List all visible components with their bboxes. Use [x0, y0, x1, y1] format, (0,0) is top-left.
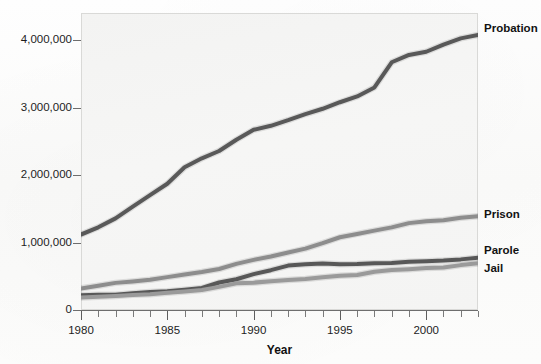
x-tick-label: 1985 — [155, 324, 181, 336]
x-tick-minor — [236, 311, 237, 317]
x-tick-major — [426, 311, 427, 320]
x-tick-minor — [478, 311, 479, 317]
y-tick-mark — [73, 108, 81, 109]
y-tick-label: 3,000,000 — [2, 101, 72, 113]
x-tick-minor — [271, 311, 272, 317]
y-tick-label: 1,000,000 — [2, 236, 72, 248]
x-tick-minor — [409, 311, 410, 317]
series-lines — [81, 13, 478, 310]
y-tick-mark — [73, 175, 81, 176]
x-axis-line — [81, 310, 478, 311]
x-tick-label: 2000 — [413, 324, 439, 336]
series-line-halo — [81, 35, 478, 235]
x-tick-minor — [202, 311, 203, 317]
x-tick-major — [81, 311, 82, 320]
series-label-prison: Prison — [484, 208, 520, 220]
x-tick-minor — [288, 311, 289, 317]
x-tick-minor — [323, 311, 324, 317]
y-tick-mark — [73, 243, 81, 244]
y-tick-mark — [73, 310, 81, 311]
x-tick-label: 1980 — [68, 324, 94, 336]
x-tick-major — [340, 311, 341, 320]
series-label-jail: Jail — [484, 262, 503, 274]
y-tick-mark — [73, 40, 81, 41]
x-tick-minor — [150, 311, 151, 317]
x-tick-minor — [116, 311, 117, 317]
x-tick-minor — [374, 311, 375, 317]
chart-figure: to Sentencing Hurdles 01,000,0002,000,00… — [0, 0, 541, 364]
x-tick-minor — [392, 311, 393, 317]
x-tick-major — [254, 311, 255, 320]
x-tick-major — [167, 311, 168, 320]
y-tick-label: 4,000,000 — [2, 33, 72, 45]
x-tick-minor — [357, 311, 358, 317]
x-tick-label: 1995 — [327, 324, 353, 336]
y-axis: 01,000,0002,000,0003,000,0004,000,000 — [0, 0, 72, 364]
y-tick-label: 2,000,000 — [2, 168, 72, 180]
x-tick-minor — [305, 311, 306, 317]
y-tick-label: 0 — [2, 303, 72, 315]
x-tick-minor — [133, 311, 134, 317]
series-label-parole: Parole — [484, 244, 519, 256]
series-label-probation: Probation — [484, 22, 538, 34]
x-axis-title: Year — [81, 343, 478, 357]
x-tick-minor — [185, 311, 186, 317]
x-tick-minor — [443, 311, 444, 317]
x-tick-minor — [461, 311, 462, 317]
x-tick-minor — [98, 311, 99, 317]
x-tick-label: 1990 — [241, 324, 267, 336]
x-tick-minor — [219, 311, 220, 317]
